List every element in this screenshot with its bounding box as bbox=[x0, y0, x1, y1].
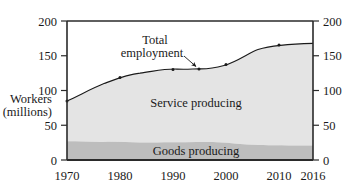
band-label-goods-producing: Goods producing bbox=[153, 144, 240, 158]
y-axis-label-right-200: 200 bbox=[323, 15, 342, 29]
data-point-marker bbox=[172, 68, 175, 71]
y-axis-label-right-150: 150 bbox=[323, 49, 342, 63]
chart-canvas: 200 150 100 50 0 200 150 100 50 0 1970 1… bbox=[0, 0, 343, 189]
data-point-marker bbox=[198, 67, 201, 70]
x-axis-label-2010: 2010 bbox=[267, 169, 292, 183]
y-axis-label-left-50: 50 bbox=[45, 119, 58, 133]
y-axis-label-right-0: 0 bbox=[323, 154, 329, 168]
employment-area-chart-figure: 200 150 100 50 0 200 150 100 50 0 1970 1… bbox=[0, 0, 343, 189]
x-axis-label-1970: 1970 bbox=[55, 169, 80, 183]
annotation-total-employment-line1: Total bbox=[142, 33, 168, 47]
annotation-total-employment-line2: employment bbox=[121, 46, 184, 60]
x-axis-label-2000: 2000 bbox=[214, 169, 239, 183]
y-axis-title-line2: (millions) bbox=[3, 105, 52, 119]
x-axis-label-1990: 1990 bbox=[161, 169, 186, 183]
x-axis-label-2016: 2016 bbox=[301, 169, 326, 183]
y-axis-title-line1: Workers bbox=[10, 92, 52, 106]
y-axis-label-left-150: 150 bbox=[38, 49, 57, 63]
data-point-marker bbox=[225, 63, 228, 66]
data-point-marker bbox=[278, 44, 281, 47]
y-axis-label-right-100: 100 bbox=[323, 84, 342, 98]
data-point-marker bbox=[119, 76, 122, 79]
band-label-service-producing: Service producing bbox=[150, 96, 242, 110]
x-axis-label-1980: 1980 bbox=[108, 169, 133, 183]
y-axis-label-left-200: 200 bbox=[38, 15, 57, 29]
y-axis-label-left-0: 0 bbox=[51, 154, 57, 168]
y-axis-label-right-50: 50 bbox=[323, 119, 336, 133]
